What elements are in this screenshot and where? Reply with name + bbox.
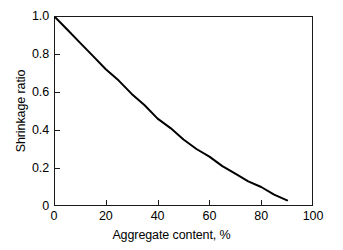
plot-area-frame	[54, 16, 313, 206]
y-tick-mark	[54, 130, 60, 131]
x-tick-mark	[158, 200, 159, 206]
x-tick-mark	[209, 200, 210, 206]
x-axis-title: Aggregate content, %	[0, 229, 343, 242]
chart-figure: 1.0 0.8 0.6 0.4 0.2 0 0 20 40 60 80 100 …	[0, 0, 343, 250]
y-tick-mark	[54, 54, 60, 55]
x-tick-mark	[261, 200, 262, 206]
y-tick-label-5: 0.2	[32, 162, 49, 175]
y-axis-title: Shrinkage ratio	[13, 16, 29, 206]
x-tick-label-5: 80	[254, 210, 268, 223]
x-tick-label-6: 100	[303, 210, 324, 223]
y-tick-label-3: 0.6	[32, 86, 49, 99]
y-tick-label-6: 0	[42, 200, 49, 213]
y-tick-mark	[54, 92, 60, 93]
y-tick-label-4: 0.4	[32, 124, 49, 137]
x-tick-label-2: 20	[99, 210, 113, 223]
x-tick-label-1: 0	[51, 210, 58, 223]
y-tick-mark	[54, 168, 60, 169]
x-tick-label-3: 40	[151, 210, 165, 223]
x-tick-label-4: 60	[203, 210, 217, 223]
y-tick-mark	[54, 16, 60, 17]
x-tick-mark	[106, 200, 107, 206]
y-tick-label-1: 1.0	[32, 10, 49, 23]
y-tick-label-2: 0.8	[32, 48, 49, 61]
